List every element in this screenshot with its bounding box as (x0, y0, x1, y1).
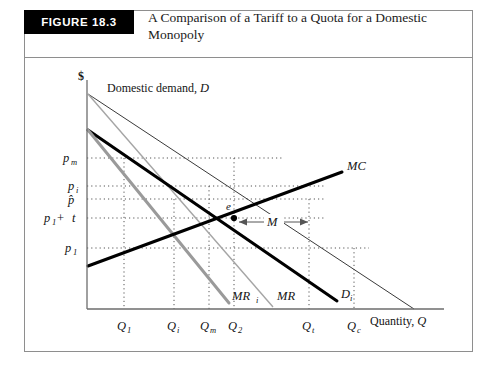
figure-title: A Comparison of a Tariff to a Quota for … (148, 10, 460, 43)
svg-text:1: 1 (127, 325, 131, 335)
label-imports-M: M (266, 215, 278, 229)
svg-text:2: 2 (238, 325, 243, 335)
label-curve-Di: D i (340, 287, 353, 303)
curve-domestic-demand-D (88, 94, 414, 309)
chart-area: e M $ Quantity, Q Domestic demand, D MC … (24, 58, 473, 352)
curve-Di (88, 130, 337, 301)
svg-text:t: t (312, 325, 315, 335)
label-point-e: e (226, 200, 231, 212)
curve-MC (88, 172, 342, 266)
svg-text:i: i (76, 185, 79, 195)
y-tick-label-p1: p 1 (64, 241, 77, 257)
svg-text:i: i (256, 295, 259, 305)
figure-number-badge: FIGURE 18.3 (24, 10, 134, 34)
curve-MR (88, 94, 273, 307)
svg-text:Q: Q (200, 319, 209, 333)
svg-text:Q: Q (302, 319, 311, 333)
svg-text:MR: MR (231, 289, 250, 303)
svg-text:1: 1 (73, 247, 77, 257)
svg-text:D: D (340, 287, 350, 301)
svg-text:p: p (43, 211, 50, 225)
label-curve-MC: MC (346, 159, 366, 173)
label-domestic-demand-note: Domestic demand, D (107, 81, 209, 95)
label-curve-MRi: MR i (231, 289, 259, 305)
x-tick-label-qm: Q m (200, 319, 216, 335)
arrow-head-right (300, 219, 308, 226)
svg-text:p: p (62, 151, 69, 165)
svg-text:Q: Q (347, 319, 356, 333)
svg-text:1: 1 (52, 217, 56, 227)
svg-text:c: c (357, 325, 361, 335)
svg-text:Q: Q (228, 319, 237, 333)
economics-line-chart: e M $ Quantity, Q Domestic demand, D MC … (24, 58, 473, 352)
svg-text:m: m (71, 157, 77, 167)
equilibrium-marker-e (231, 215, 237, 221)
svg-text:p̂: p̂ (67, 193, 74, 207)
curve-MRi (88, 130, 229, 303)
x-axis-label-quantity: Quantity, Q (370, 314, 426, 328)
x-tick-label-qc: Q c (347, 319, 361, 335)
x-tick-label-q1: Q 1 (117, 319, 131, 335)
y-axis-label-dollar: $ (78, 69, 84, 83)
svg-text:i: i (350, 293, 353, 303)
label-curve-MR: MR (276, 289, 295, 303)
y-tick-label-phat: p̂ (67, 193, 74, 207)
y-tick-label-p1t: p 1 + t (43, 211, 76, 227)
imports-gap-arrow: M (239, 214, 308, 230)
x-tick-label-q2: Q 2 (228, 319, 243, 335)
x-axis-label-text: Quantity, (370, 314, 417, 328)
figure-page: FIGURE 18.3 A Comparison of a Tariff to … (0, 0, 497, 365)
svg-text:i: i (177, 325, 180, 335)
figure-header: FIGURE 18.3 A Comparison of a Tariff to … (24, 10, 473, 58)
arrow-head-left (239, 219, 247, 226)
svg-text:p: p (64, 241, 71, 255)
y-tick-label-pm: p m (62, 151, 77, 167)
svg-text:t: t (72, 211, 76, 225)
svg-text:Q: Q (167, 319, 176, 333)
svg-text:p: p (67, 179, 74, 193)
svg-text:Q: Q (117, 319, 126, 333)
x-tick-label-qt: Q t (302, 319, 315, 335)
svg-text:m: m (210, 325, 216, 335)
x-tick-label-qi: Q i (167, 319, 180, 335)
svg-text:+: + (57, 211, 64, 225)
